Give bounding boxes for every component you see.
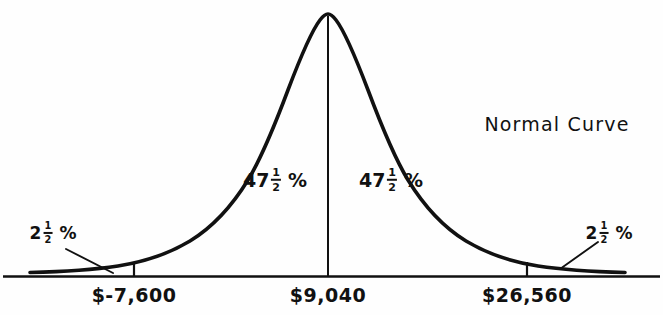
axis-label-mean: $9,040 — [290, 286, 366, 305]
region-whole-number: 2 — [30, 225, 42, 242]
fraction-numerator: 1 — [599, 220, 608, 230]
fraction-numerator: 1 — [271, 166, 281, 177]
axis-label-lower-bound: $-7,600 — [92, 286, 177, 305]
fraction-one-half: 1 2 — [387, 166, 397, 192]
percent-sign: % — [404, 171, 423, 190]
region-whole-number: 47 — [243, 171, 269, 190]
fraction-denominator: 2 — [271, 182, 281, 193]
region-label-right-tail: 2 1 2 % — [586, 221, 633, 245]
region-whole-number: 2 — [586, 225, 598, 242]
axis-label-upper-bound: $26,560 — [482, 286, 572, 305]
fraction-numerator: 1 — [387, 166, 397, 177]
fraction-one-half: 1 2 — [599, 220, 608, 244]
leader-line-right-tail — [560, 242, 598, 269]
fraction-one-half: 1 2 — [271, 166, 281, 192]
percent-sign: % — [59, 225, 76, 242]
region-label-right-center: 47 1 2 % — [359, 167, 423, 193]
fraction-denominator: 2 — [599, 235, 608, 245]
fraction-denominator: 2 — [387, 182, 397, 193]
region-whole-number: 47 — [359, 171, 385, 190]
percent-sign: % — [288, 171, 307, 190]
fraction-numerator: 1 — [43, 220, 52, 230]
normal-curve-figure: Normal Curve $-7,600 $9,040 $26,560 2 1 … — [0, 0, 663, 315]
figure-title: Normal Curve — [484, 115, 629, 134]
curve-graphic — [0, 0, 663, 315]
fraction-one-half: 1 2 — [43, 220, 52, 244]
region-label-left-center: 47 1 2 % — [243, 167, 307, 193]
percent-sign: % — [615, 225, 632, 242]
region-label-left-tail: 2 1 2 % — [30, 221, 77, 245]
fraction-denominator: 2 — [43, 235, 52, 245]
